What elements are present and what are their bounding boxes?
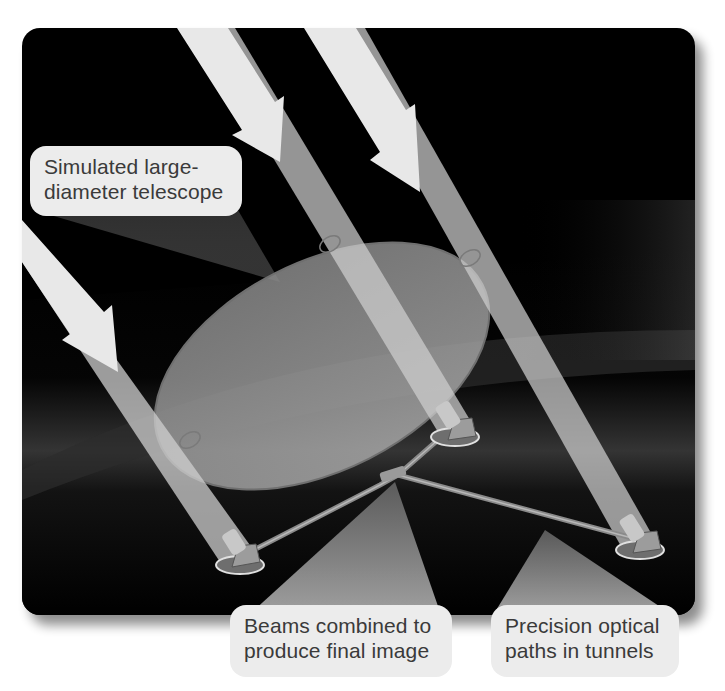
interferometer-diagram: Simulated large- diameter telescope Beam…: [0, 0, 725, 691]
label-line: paths in tunnels: [505, 638, 665, 663]
label-line: Precision optical: [505, 613, 665, 638]
label-beams-combined: Beams combined to produce final image: [230, 605, 452, 677]
label-line: Beams combined to: [244, 613, 438, 638]
label-line: diameter telescope: [44, 179, 228, 204]
label-optical-paths: Precision optical paths in tunnels: [491, 605, 679, 677]
diagram-canvas: [0, 0, 725, 691]
label-simulated-telescope: Simulated large- diameter telescope: [30, 146, 242, 216]
label-line: Simulated large-: [44, 154, 228, 179]
label-line: produce final image: [244, 638, 438, 663]
